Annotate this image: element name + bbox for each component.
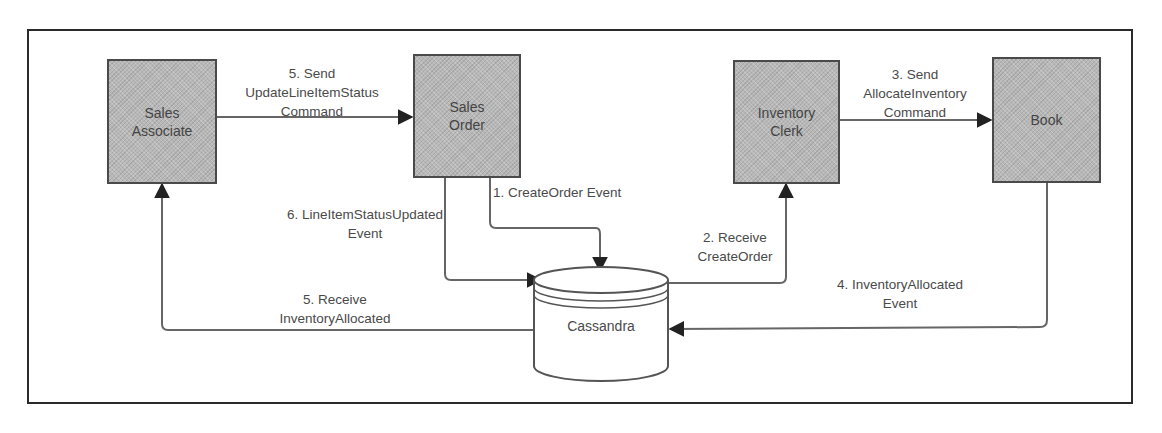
edge-label-update-line-item-status-command: 5. Send UpdateLineItemStatus Command: [232, 64, 392, 121]
edge-label-line-item-status-updated-event: 6. LineItemStatusUpdated Event: [265, 205, 465, 243]
diagram-canvas: Sales Associate Sales Order Inventory Cl…: [0, 0, 1162, 433]
edge-label-inventory-allocated-event: 4. InventoryAllocated Event: [810, 275, 990, 313]
node-sales-order-label: Sales Order: [449, 98, 485, 134]
edge-label-receive-inventory-allocated: 5. Receive InventoryAllocated: [255, 290, 415, 328]
node-sales-associate: Sales Associate: [107, 59, 217, 184]
node-book-label: Book: [1031, 111, 1063, 129]
node-sales-order: Sales Order: [413, 54, 521, 178]
node-inventory-clerk-label: Inventory Clerk: [758, 104, 816, 140]
edge-label-create-order-event: 1. CreateOrder Event: [493, 183, 653, 202]
edge-label-allocate-inventory-command: 3. Send AllocateInventory Command: [850, 65, 980, 122]
node-book: Book: [992, 57, 1101, 183]
node-cassandra-label: Cassandra: [533, 318, 669, 334]
node-inventory-clerk: Inventory Clerk: [733, 60, 840, 184]
edge-label-receive-create-order: 2. Receive CreateOrder: [685, 228, 785, 266]
node-sales-associate-label: Sales Associate: [132, 104, 193, 140]
